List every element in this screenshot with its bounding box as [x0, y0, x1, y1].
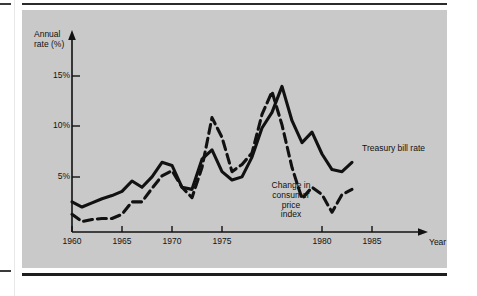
y-axis-title-line2: rate (%) — [34, 39, 64, 49]
x-tick-label-1975: 1975 — [202, 237, 242, 247]
x-axis-title: Year — [429, 238, 446, 248]
y-tick-label-15: 15% — [36, 71, 70, 81]
y-tick-label-10: 10% — [36, 121, 70, 131]
x-tick-label-1980: 1980 — [302, 237, 342, 247]
chart-panel — [22, 10, 447, 268]
page-edge-rule-bottom — [0, 270, 11, 272]
x-tick-label-1970: 1970 — [152, 237, 192, 247]
page-edge-rule-top — [0, 3, 11, 5]
x-tick-label-1965: 1965 — [102, 237, 142, 247]
cpi-label-line2: consumer — [272, 190, 309, 200]
series-annotation-consumer-price-index: Change inconsumerpriceindex — [258, 181, 324, 220]
cpi-label-line4: index — [281, 209, 301, 219]
y-tick-label-5: 5% — [36, 172, 70, 182]
series-annotation-treasury-bill-rate: Treasury bill rate — [362, 144, 425, 154]
cpi-label-line3: price — [282, 200, 300, 210]
figure-rule-bottom — [22, 273, 447, 276]
y-axis-title: Annualrate (%) — [34, 30, 64, 50]
figure-rule-top — [22, 3, 447, 5]
cpi-label-line1: Change in — [272, 180, 311, 190]
x-tick-label-1960: 1960 — [52, 237, 92, 247]
y-axis-title-line1: Annual — [34, 29, 60, 39]
x-tick-label-1985: 1985 — [352, 237, 392, 247]
page-edge-strip — [0, 0, 15, 296]
